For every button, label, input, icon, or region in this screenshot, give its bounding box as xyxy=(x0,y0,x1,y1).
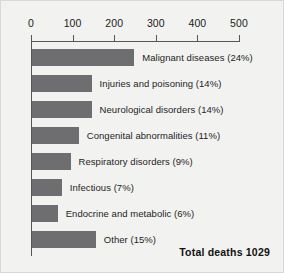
plot-area: Malignant diseases (24%) Injuries and po… xyxy=(1,42,284,258)
bar-row: Injuries and poisoning (14%) xyxy=(32,75,221,92)
bar xyxy=(32,153,71,170)
bar xyxy=(32,179,62,196)
x-axis-tick-label: 0 xyxy=(28,17,34,29)
x-axis-tick-label: 200 xyxy=(105,17,123,29)
bar xyxy=(32,49,134,66)
total-deaths-annotation: Total deaths 1029 xyxy=(179,246,270,258)
bar xyxy=(32,231,96,248)
bar-label: Neurological disorders (14%) xyxy=(100,104,224,115)
bar-label: Infectious (7%) xyxy=(70,182,134,193)
x-axis-tick-label: 500 xyxy=(230,17,248,29)
bar-label: Endocrine and metabolic (6%) xyxy=(66,208,195,219)
bar-row: Congenital abnormalities (11%) xyxy=(32,127,220,144)
x-axis: 0 100 200 300 400 500 xyxy=(1,1,284,46)
bar-row: Other (15%) xyxy=(32,231,156,248)
bar-label: Malignant diseases (24%) xyxy=(142,52,253,63)
bar xyxy=(32,127,79,144)
bar-label: Respiratory disorders (9%) xyxy=(79,156,193,167)
bar xyxy=(32,75,92,92)
x-axis-tick-label: 400 xyxy=(188,17,206,29)
bar xyxy=(32,205,58,222)
bar-row: Malignant diseases (24%) xyxy=(32,49,253,66)
bar-label: Congenital abnormalities (11%) xyxy=(87,130,220,141)
bar-row: Neurological disorders (14%) xyxy=(32,101,224,118)
bar-row: Infectious (7%) xyxy=(32,179,134,196)
bar-row: Respiratory disorders (9%) xyxy=(32,153,193,170)
bar-label: Injuries and poisoning (14%) xyxy=(100,78,222,89)
bar-label: Other (15%) xyxy=(104,234,156,245)
x-axis-tick-mark xyxy=(239,35,240,42)
bar-row: Endocrine and metabolic (6%) xyxy=(32,205,194,222)
x-axis-tick-label: 100 xyxy=(64,17,82,29)
bar-chart-figure: 0 100 200 300 400 500 Malignant diseases… xyxy=(0,0,284,273)
x-axis-tick-label: 300 xyxy=(147,17,165,29)
bar xyxy=(32,101,92,118)
